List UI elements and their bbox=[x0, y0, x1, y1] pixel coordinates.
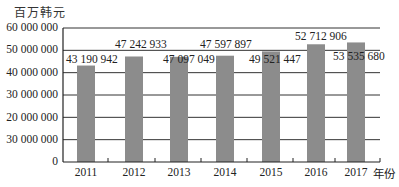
data-label: 49 521 447 bbox=[249, 53, 301, 65]
bar-chart: 百万韩元 60 000 000 50 000 000 40 000 000 30… bbox=[0, 0, 399, 187]
bar bbox=[262, 51, 280, 162]
data-label: 43 190 942 bbox=[66, 53, 118, 65]
y-tick-label: 30 000 000 bbox=[0, 88, 58, 100]
y-tick-label: 0 bbox=[0, 155, 58, 167]
y-tick-label: 40 000 000 bbox=[0, 66, 58, 78]
data-label: 53 535 680 bbox=[333, 50, 385, 62]
data-label: 52 712 906 bbox=[295, 30, 347, 42]
x-tick-label: 2012 bbox=[114, 166, 154, 178]
bar bbox=[216, 56, 234, 162]
x-tick-label: 2015 bbox=[251, 166, 291, 178]
bar bbox=[125, 56, 143, 162]
bar bbox=[77, 66, 95, 162]
x-tick-label: 2013 bbox=[159, 166, 199, 178]
y-tick-label: 60 000 000 bbox=[0, 21, 58, 33]
y-tick-label: 30 000 000 bbox=[0, 133, 58, 145]
x-tick-label: 2017 bbox=[336, 166, 376, 178]
x-tick-label: 2011 bbox=[66, 166, 106, 178]
y-tick-label: 50 000 000 bbox=[0, 43, 58, 55]
data-label: 47 242 933 bbox=[115, 38, 167, 50]
data-label: 47 597 897 bbox=[200, 38, 252, 50]
bar bbox=[307, 44, 325, 162]
bar bbox=[170, 57, 188, 162]
x-axis-unit-label: 年份 bbox=[373, 165, 395, 181]
y-tick-label: 20 000 000 bbox=[0, 111, 58, 123]
data-label: 47 097 049 bbox=[163, 53, 215, 65]
plot-area bbox=[0, 0, 399, 187]
x-tick-label: 2014 bbox=[205, 166, 245, 178]
x-tick-label: 2016 bbox=[296, 166, 336, 178]
